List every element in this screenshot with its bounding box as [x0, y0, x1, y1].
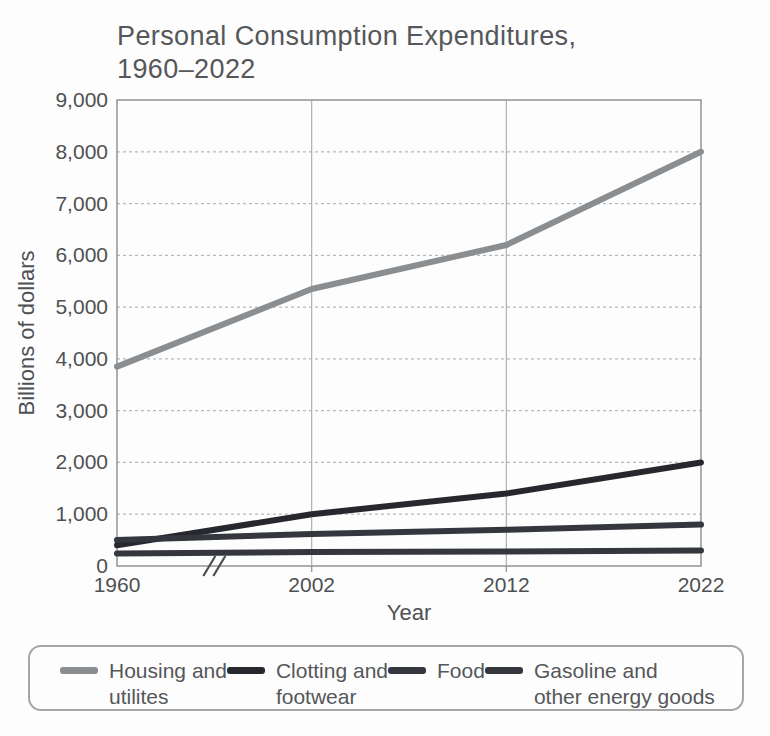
legend-swatch-housing-and-utilites	[60, 667, 98, 674]
legend-swatch-clotting-and-footwear	[227, 667, 265, 674]
series-line-gasoline-and-other-energy-goods	[117, 550, 701, 553]
axis-layer: 01,0002,0003,0004,0005,0006,0007,0008,00…	[55, 88, 724, 596]
y-tick-label: 5,000	[55, 295, 108, 318]
legend-label-housing-and-utilites: Housing andutilites	[109, 658, 227, 711]
x-tick-label: 2012	[483, 573, 530, 596]
legend-label-food: Food	[437, 658, 485, 684]
x-tick-label: 1960	[94, 573, 141, 596]
legend-swatch-gasoline-and-other-energy-goods	[485, 667, 523, 674]
legend-item-food: Food	[388, 658, 485, 684]
x-tick-label: 2002	[288, 573, 335, 596]
legend-swatch-food	[388, 667, 426, 674]
line-chart: 01,0002,0003,0004,0005,0006,0007,0008,00…	[0, 0, 770, 640]
legend-label-gasoline-and-other-energy-goods: Gasoline andother energy goods	[534, 658, 715, 711]
x-axis-title: Year	[387, 600, 431, 625]
legend-label-clotting-and-footwear: Clotting andfootwear	[276, 658, 388, 711]
series-line-housing-and-utilites	[117, 152, 701, 367]
y-axis-title: Billions of dollars	[14, 250, 39, 415]
chart-figure: Personal Consumption Expenditures, 1960–…	[0, 0, 770, 736]
legend: Housing andutilitesClotting andfootwearF…	[28, 645, 744, 711]
y-tick-label: 2,000	[55, 450, 108, 473]
y-tick-label: 8,000	[55, 140, 108, 163]
y-tick-label: 7,000	[55, 192, 108, 215]
y-tick-label: 1,000	[55, 502, 108, 525]
legend-item-clotting-and-footwear: Clotting andfootwear	[227, 658, 388, 711]
y-tick-label: 3,000	[55, 399, 108, 422]
series-layer	[117, 152, 701, 554]
y-tick-label: 9,000	[55, 88, 108, 111]
y-tick-label: 4,000	[55, 347, 108, 370]
y-tick-label: 6,000	[55, 243, 108, 266]
x-tick-label: 2022	[678, 573, 725, 596]
legend-item-housing-and-utilites: Housing andutilites	[60, 658, 227, 711]
legend-item-gasoline-and-other-energy-goods: Gasoline andother energy goods	[485, 658, 715, 711]
